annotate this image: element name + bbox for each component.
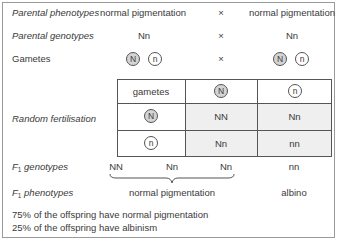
summary-line-albinism: 25% of the offspring have albinism	[12, 222, 157, 233]
f1-phenotype-albino: albino	[281, 187, 306, 198]
cross-symbol: ×	[218, 7, 224, 18]
gamete-dominant-circle: N	[126, 52, 140, 66]
row-gamete-recessive: n	[144, 136, 158, 150]
summary-line-normal: 75% of the offspring have normal pigment…	[12, 209, 208, 220]
grid-line	[185, 79, 186, 157]
f1-genotype-Nn: Nn	[220, 161, 232, 172]
f1-genotype-Nn: Nn	[166, 161, 178, 172]
parent2-genotype: Nn	[286, 30, 298, 41]
grid-line	[117, 79, 118, 157]
parental-genotypes-label: Parental genotypes	[12, 30, 94, 41]
row-gamete-dominant: N	[144, 109, 158, 123]
parent1-phenotype: normal pigmentation	[100, 7, 186, 18]
punnett-square: NN Nn Nn nn gametes N n N n	[117, 79, 332, 157]
random-fertilisation-label: Random fertilisation	[12, 113, 96, 124]
grid-line	[331, 79, 332, 157]
gamete-recessive-circle: n	[295, 52, 309, 66]
punnett-cell-NN: NN	[185, 103, 257, 130]
punnett-cell-Nn: Nn	[257, 103, 332, 130]
grouping-brace-icon	[108, 173, 236, 185]
grid-line	[117, 130, 332, 131]
gamete-dominant-circle: N	[273, 52, 287, 66]
column-gamete-dominant: N	[214, 84, 228, 98]
f1-genotype-NN: NN	[109, 161, 123, 172]
f1-genotypes-label: F1 genotypes	[12, 161, 68, 173]
cross-symbol: ×	[218, 53, 224, 64]
grid-line	[257, 79, 258, 157]
grid-line	[117, 103, 332, 104]
grid-line	[117, 79, 332, 80]
punnett-cell-Nn: Nn	[185, 130, 257, 157]
f1-genotype-nn: nn	[289, 161, 300, 172]
cross-symbol: ×	[218, 30, 224, 41]
f1-phenotype-normal: normal pigmentation	[129, 187, 215, 198]
punnett-cell-nn: nn	[257, 130, 332, 157]
grid-line	[117, 156, 332, 157]
f1-phenotypes-label: F1 phenotypes	[12, 187, 73, 199]
parent1-genotype: Nn	[138, 30, 150, 41]
gametes-label: Gametes	[12, 53, 51, 64]
gamete-recessive-circle: n	[148, 52, 162, 66]
punnett-header: gametes	[117, 79, 185, 103]
parental-phenotypes-label: Parental phenotypes	[12, 7, 99, 18]
parent2-phenotype: normal pigmentation	[249, 7, 335, 18]
column-gamete-recessive: n	[288, 84, 302, 98]
